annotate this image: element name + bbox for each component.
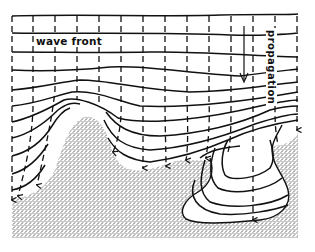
- ray-line: [206, 16, 209, 158]
- ray-line: [18, 16, 33, 196]
- propagation-label: propagation: [266, 28, 277, 106]
- wave-front-label: wave front: [34, 35, 104, 47]
- wave-front-line: [12, 14, 298, 16]
- ray-line: [228, 16, 231, 152]
- ray-line: [186, 16, 188, 160]
- ray-line: [165, 16, 166, 166]
- wave-front-line: [12, 99, 298, 122]
